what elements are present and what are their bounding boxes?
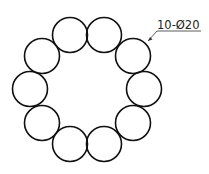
hole-circle bbox=[116, 39, 151, 74]
hole-circle bbox=[127, 72, 162, 107]
hole-circle bbox=[25, 106, 60, 141]
hole-circle bbox=[87, 18, 122, 53]
hole-circle bbox=[13, 72, 48, 107]
hole-circle bbox=[25, 39, 60, 74]
hole-circle bbox=[87, 127, 122, 162]
hole-callout-label: 10-Ø20 bbox=[157, 18, 199, 32]
leader-annotation: 10-Ø20 bbox=[148, 18, 201, 42]
leader-line bbox=[148, 31, 201, 41]
hole-circle bbox=[116, 106, 151, 141]
leader-arrow-icon bbox=[148, 37, 153, 41]
drawing-canvas: 10-Ø20 bbox=[0, 0, 209, 174]
hole-pattern bbox=[13, 18, 162, 162]
